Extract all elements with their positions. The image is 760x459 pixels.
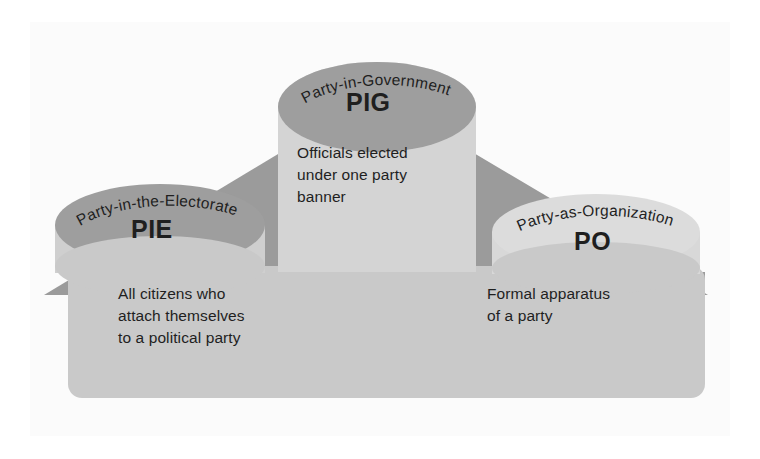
pie-acronym: PIE <box>131 215 173 244</box>
po-acronym: PO <box>574 227 611 256</box>
po-description: Formal apparatus of a party <box>487 283 697 327</box>
pig-acronym: PIG <box>346 88 391 117</box>
diagram-canvas: Party-in-the-Electorate Party-in-Governm… <box>0 0 760 459</box>
pie-description: All citizens who attach themselves to a … <box>118 283 348 349</box>
diagram-artwork: Party-in-the-Electorate Party-in-Governm… <box>0 0 760 459</box>
pig-description: Officials elected under one party banner <box>297 142 477 208</box>
